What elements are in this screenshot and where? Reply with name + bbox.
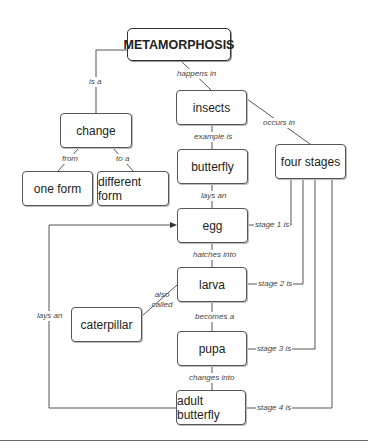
node-label: insects [193,101,230,115]
link-label-stage-4: stage 4 is [256,403,292,413]
link-label-lays-an-loop: lays an [36,311,63,321]
link-label-lays-an: lays an [200,191,227,201]
link-label-occurs-in: occurs in [262,118,296,128]
node-label: butterfly [191,160,234,174]
node-label: adult butterfly [177,394,245,422]
node-label: egg [202,219,222,233]
node-label: change [76,124,115,138]
node-one-form[interactable]: one form [22,171,93,206]
edge-stage-2 [247,179,303,284]
link-label-becomes-a: becomes a [194,312,235,322]
link-label-happens-in: happens in [176,69,217,79]
edge-stage-4 [246,179,332,408]
node-label: caterpillar [80,318,132,332]
node-larva[interactable]: larva [177,267,247,302]
node-label: METAMORPHOSIS [124,38,235,52]
edge-stage-1 [248,179,291,225]
concept-map: METAMORPHOSIS change one form different … [0,0,368,448]
link-label-stage-1: stage 1 is [254,220,290,230]
link-label-example-is: example is [193,132,233,142]
link-label-is-a: is a [88,77,102,87]
node-butterfly[interactable]: butterfly [177,149,248,184]
node-egg[interactable]: egg [177,208,248,243]
node-label: four stages [281,155,340,169]
node-label: different form [98,175,168,203]
node-label: pupa [199,342,226,356]
link-label-stage-3: stage 3 is [256,344,292,354]
link-label-changes-into: changes into [188,373,235,383]
link-label-stage-2: stage 2 is [257,279,293,289]
node-caterpillar[interactable]: caterpillar [71,307,142,342]
edge-stage-3 [247,179,315,349]
node-different-form[interactable]: different form [97,171,169,206]
arrowhead-icon [170,222,177,228]
node-change[interactable]: change [60,113,132,148]
node-insects[interactable]: insects [176,90,247,125]
link-label-also-called: also called [146,290,178,310]
node-label: one form [34,182,81,196]
node-label: larva [199,278,225,292]
bottom-divider [0,440,368,441]
node-adult-butterfly[interactable]: adult butterfly [176,390,246,425]
link-label-to-a: to a [115,154,130,164]
node-metamorphosis[interactable]: METAMORPHOSIS [127,28,231,61]
node-pupa[interactable]: pupa [177,331,247,366]
link-label-hatches-into: hatches into [192,250,237,260]
node-four-stages[interactable]: four stages [275,144,346,179]
link-label-from: from [61,154,79,164]
